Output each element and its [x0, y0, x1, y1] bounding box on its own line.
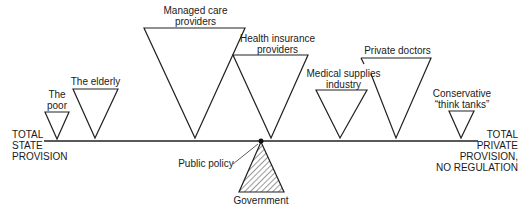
label-the-poor: Thepoor [42, 89, 72, 111]
label-the-elderly: The elderly [68, 76, 123, 87]
left-end-label: TOTAL STATE PROVISION [12, 129, 68, 162]
weight-managed-care [144, 28, 245, 138]
weight-medical-supplies [316, 90, 367, 138]
label-public-policy: Public policy [178, 158, 234, 169]
government-fulcrum [239, 142, 284, 192]
right-end-label: TOTAL PRIVATE PROVISION, NO REGULATION [420, 129, 518, 173]
weight-health-insurance [233, 55, 308, 138]
label-medical-supplies: Medical suppliesindustry [306, 68, 381, 90]
pivot-dot [259, 139, 264, 144]
weight-the-elderly [73, 89, 118, 138]
label-managed-care: Managed careproviders [158, 5, 233, 27]
label-government: Government [230, 195, 292, 206]
label-think-tanks: Conservative“think tanks” [428, 88, 496, 110]
label-health-insurance: Health insuranceproviders [240, 33, 315, 55]
label-private-doctors: Private doctors [360, 45, 435, 56]
